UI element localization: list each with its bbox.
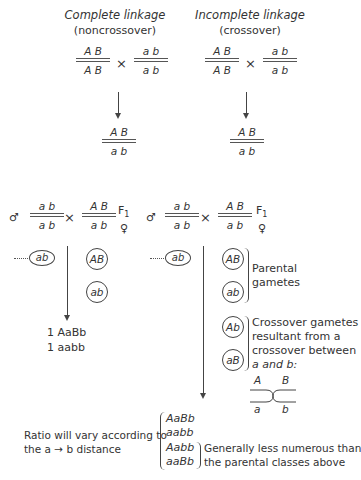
- complete-offspring-genotype: A B a b: [102, 126, 136, 157]
- arrow-down-icon: [64, 315, 70, 321]
- recombinant-note-line1: Generally less numerous than: [204, 441, 361, 455]
- incomplete-parent1-genotype: A B A B: [205, 45, 239, 76]
- ratio-note-line2: the a → b distance: [24, 442, 121, 456]
- female-gamete-ab: ab: [86, 281, 108, 303]
- arrow-line: [203, 246, 204, 394]
- female-gamete-AB: AB: [86, 248, 108, 270]
- crossover-label-4: a and b:: [252, 358, 297, 372]
- cross-symbol: ×: [200, 210, 211, 225]
- incomplete-parent2-genotype: a b a b: [263, 45, 297, 76]
- arrow-line: [67, 246, 68, 316]
- male-symbol-icon: ♂: [9, 211, 19, 224]
- cross-symbol: ×: [64, 210, 75, 225]
- crossover-label-1: Crossover gametes: [252, 316, 358, 330]
- complete-parent2-genotype: a b a b: [134, 45, 168, 76]
- parental-brace: [244, 248, 249, 303]
- complete-parent1-genotype: A B A B: [76, 45, 110, 76]
- crossover-label-3: crossover between: [252, 344, 356, 358]
- outcome-brace: [160, 412, 165, 470]
- genotype-Aabb: Aabb: [166, 441, 194, 455]
- arrow-down-icon: [115, 113, 121, 119]
- sperm-tail-icon: [150, 258, 164, 259]
- crossover-gamete-aB: aB: [222, 349, 244, 371]
- incomplete-linkage-title: Incomplete linkage: [185, 8, 315, 22]
- parental-gamete-AB: AB: [222, 248, 244, 270]
- result-AaBb: 1 AaBb: [47, 326, 86, 340]
- arrow-down-icon: [200, 393, 206, 399]
- ratio-note-line1: Ratio will vary according to: [24, 428, 167, 442]
- crossover-label-2: resultant from a: [252, 330, 340, 344]
- f1-label: F1: [256, 204, 267, 219]
- arrow-line: [118, 92, 119, 114]
- genotype-aaBb: aaBb: [166, 455, 194, 469]
- noncrossover-subtitle: (noncrossover): [55, 24, 175, 37]
- result-aabb: 1 aabb: [47, 341, 85, 355]
- cross-symbol: ×: [245, 56, 256, 71]
- sperm-tail-icon: [14, 258, 28, 259]
- parental-gamete-ab: ab: [222, 281, 244, 303]
- arrow-down-icon: [243, 113, 249, 119]
- gametes-label: gametes: [252, 276, 300, 290]
- female-symbol-icon: ♀: [258, 222, 266, 235]
- left-female-genotype: A B a b: [82, 200, 116, 231]
- parental-label: Parental: [252, 262, 297, 276]
- crossover-gamete-Ab: Ab: [222, 316, 244, 338]
- right-female-genotype: A B a b: [218, 200, 252, 231]
- cross-symbol: ×: [116, 56, 127, 71]
- complete-linkage-title: Complete linkage: [55, 8, 175, 22]
- incomplete-offspring-genotype: A B a b: [230, 126, 264, 157]
- arrow-line: [246, 92, 247, 114]
- male-gamete: ab: [165, 250, 191, 266]
- genotype-aabb: aabb: [166, 426, 193, 440]
- genotype-AaBb: AaBb: [166, 412, 195, 426]
- right-male-genotype: a b a b: [165, 200, 199, 231]
- f1-label: F1: [118, 204, 129, 219]
- recombinant-note-line2: the parental classes above: [204, 455, 345, 469]
- chiasma-diagram: A B a b: [248, 375, 298, 415]
- crossover-subtitle: (crossover): [185, 24, 315, 37]
- male-gamete: ab: [29, 250, 55, 266]
- left-male-genotype: a b a b: [30, 200, 64, 231]
- female-symbol-icon: ♀: [120, 222, 128, 235]
- recombinant-brace: [196, 442, 201, 469]
- male-symbol-icon: ♂: [146, 211, 156, 224]
- crossover-brace: [244, 316, 249, 371]
